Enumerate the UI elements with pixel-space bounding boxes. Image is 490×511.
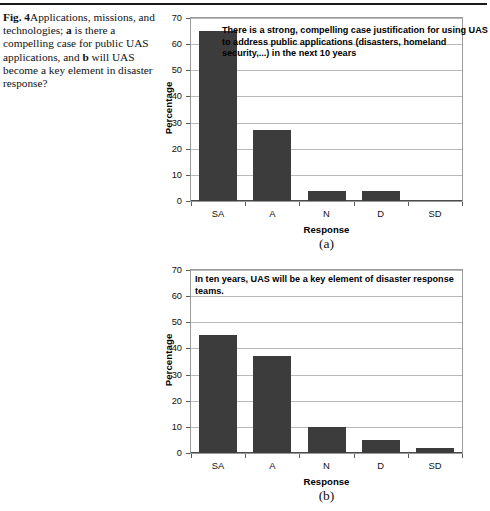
y-tick-mark: [186, 322, 190, 323]
bar-a: [253, 130, 291, 201]
bar-a: [253, 356, 291, 453]
y-tick-label: 50: [122, 317, 182, 327]
y-tick-mark: [186, 149, 190, 150]
chart-panel-a: Percentage 010203040506070 SAANDSD Respo…: [160, 8, 487, 253]
y-tick-mark: [186, 18, 190, 19]
bar-d: [362, 440, 400, 453]
y-tick-label: 20: [122, 396, 182, 406]
chart-a-xticks: [191, 202, 462, 207]
y-tick-label: 70: [122, 13, 182, 23]
chart-a-xtick-labels: SAANDSD: [191, 208, 462, 219]
x-tick-mark: [462, 202, 463, 206]
y-tick-label: 0: [122, 448, 182, 458]
y-tick-mark: [186, 123, 190, 124]
chart-a-xlabel: Response: [191, 224, 462, 235]
y-tick-mark: [186, 201, 190, 202]
chart-b-xtick-labels: SAANDSD: [191, 460, 462, 471]
x-tick-mark: [299, 454, 300, 458]
bar-slot: [354, 270, 408, 453]
y-tick-mark: [186, 348, 190, 349]
y-tick-mark: [186, 175, 190, 176]
x-tick-mark: [191, 454, 192, 458]
x-tick-label: A: [245, 208, 299, 219]
x-tick-mark: [191, 202, 192, 206]
x-tick-mark: [245, 454, 246, 458]
bar-slot: [245, 270, 299, 453]
figure-caption-label: Fig. 4: [3, 11, 30, 23]
bar-sd: [416, 448, 454, 453]
x-tick-label: SD: [408, 460, 462, 471]
y-tick-mark: [186, 96, 190, 97]
bar-sa: [199, 335, 237, 453]
y-tick-label: 10: [122, 422, 182, 432]
chart-b-xticks: [191, 454, 462, 459]
y-tick-mark: [186, 375, 190, 376]
y-tick-label: 40: [122, 343, 182, 353]
chart-b-xlabel: Response: [191, 476, 462, 487]
chart-b-annotation: In ten years, UAS will be a key element …: [195, 274, 485, 297]
y-tick-label: 20: [122, 144, 182, 154]
x-tick-mark: [354, 202, 355, 206]
y-tick-label: 30: [122, 118, 182, 128]
chart-panel-b: Percentage 010203040506070 SAANDSD Respo…: [160, 260, 487, 511]
x-tick-label: D: [354, 208, 408, 219]
x-tick-mark: [408, 202, 409, 206]
y-tick-mark: [186, 296, 190, 297]
bar-d: [362, 191, 400, 201]
bar-slot: [408, 270, 462, 453]
y-tick-label: 0: [122, 196, 182, 206]
x-tick-label: SA: [191, 460, 245, 471]
x-tick-label: N: [299, 208, 353, 219]
chart-a-area: Percentage 010203040506070 SAANDSD Respo…: [160, 8, 487, 223]
y-tick-mark: [186, 453, 190, 454]
x-tick-mark: [408, 454, 409, 458]
y-tick-label: 70: [122, 265, 182, 275]
chart-a-sub-caption: (a): [191, 236, 462, 252]
x-tick-label: D: [354, 460, 408, 471]
x-tick-label: A: [245, 460, 299, 471]
y-tick-mark: [186, 44, 190, 45]
y-tick-mark: [186, 70, 190, 71]
y-tick-label: 40: [122, 91, 182, 101]
y-tick-mark: [186, 270, 190, 271]
y-tick-label: 30: [122, 370, 182, 380]
page-header-rule: [0, 3, 487, 5]
chart-a-annotation: There is a strong, compelling case justi…: [222, 25, 490, 60]
y-tick-label: 60: [122, 39, 182, 49]
bar-slot: [299, 270, 353, 453]
bar-n: [308, 427, 346, 453]
y-tick-mark: [186, 401, 190, 402]
x-tick-label: N: [299, 460, 353, 471]
x-tick-label: SA: [191, 208, 245, 219]
chart-b-bars: [191, 270, 462, 453]
y-tick-label: 50: [122, 65, 182, 75]
chart-b-sub-caption: (b): [191, 488, 462, 504]
x-tick-mark: [245, 202, 246, 206]
bar-slot: [191, 270, 245, 453]
y-tick-label: 10: [122, 170, 182, 180]
x-tick-mark: [462, 454, 463, 458]
y-tick-label: 60: [122, 291, 182, 301]
y-tick-mark: [186, 427, 190, 428]
x-tick-label: SD: [408, 208, 462, 219]
x-tick-mark: [354, 454, 355, 458]
chart-b-area: Percentage 010203040506070 SAANDSD Respo…: [160, 260, 487, 475]
bar-n: [308, 191, 346, 201]
x-tick-mark: [299, 202, 300, 206]
